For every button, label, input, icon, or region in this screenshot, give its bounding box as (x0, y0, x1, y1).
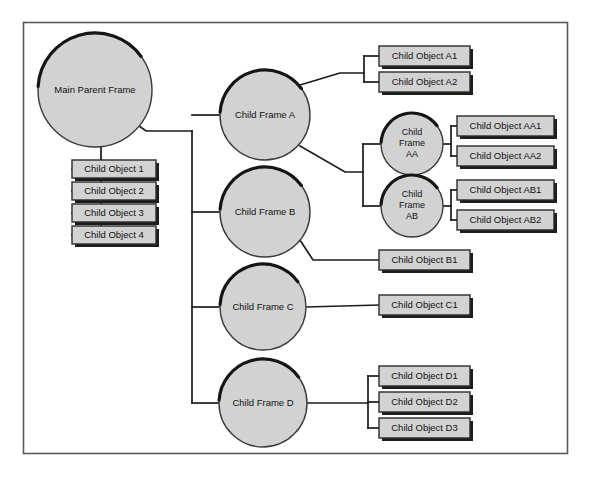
child-object-a1-label: Child Object A1 (392, 50, 457, 61)
child-object-ab2-label: Child Object AB2 (470, 214, 542, 225)
child-frame-aa-label-line: Child (402, 127, 423, 137)
frame-hierarchy-diagram: Child Object 1Child Object 2Child Object… (0, 0, 591, 477)
connector-line (300, 146, 363, 172)
child-frame-ab[interactable]: ChildFrameAB (381, 175, 443, 237)
diagram-canvas: Child Object 1Child Object 2Child Object… (0, 0, 591, 477)
child-object-d1-label: Child Object D1 (391, 370, 458, 381)
child-object-2[interactable]: Child Object 2 (72, 182, 159, 203)
child-object-d3[interactable]: Child Object D3 (379, 418, 473, 441)
child-object-c1-label: Child Object C1 (391, 299, 458, 310)
child-frame-aa-label-line: Frame (399, 138, 425, 148)
child-object-ab1[interactable]: Child Object AB1 (457, 180, 557, 203)
child-object-ab1-label: Child Object AB1 (470, 184, 542, 195)
child-object-aa2-label: Child Object AA2 (470, 150, 542, 161)
child-frame-a[interactable]: Child Frame A (220, 70, 310, 160)
child-object-a2[interactable]: Child Object A2 (379, 72, 473, 95)
child-frame-a-label: Child Frame A (235, 109, 296, 120)
main-parent-frame-label: Main Parent Frame (54, 84, 135, 95)
child-object-d1[interactable]: Child Object D1 (379, 366, 473, 389)
child-object-d3-label: Child Object D3 (391, 422, 458, 433)
child-object-ab2[interactable]: Child Object AB2 (457, 210, 557, 233)
node-layer: Child Object 1Child Object 2Child Object… (38, 33, 557, 447)
connector-line (296, 234, 379, 260)
child-object-3[interactable]: Child Object 3 (72, 204, 159, 225)
child-frame-c[interactable]: Child Frame C (220, 264, 306, 350)
main-parent-frame[interactable]: Main Parent Frame (38, 33, 152, 147)
child-frame-aa[interactable]: ChildFrameAA (381, 113, 443, 175)
child-frame-ab-label-line: Child (402, 189, 423, 199)
child-object-a2-label: Child Object A2 (392, 76, 457, 87)
child-object-3-label: Child Object 3 (84, 207, 144, 218)
child-object-d2[interactable]: Child Object D2 (379, 392, 473, 415)
child-object-aa1[interactable]: Child Object AA1 (457, 116, 557, 139)
child-object-2-label: Child Object 2 (84, 185, 144, 196)
child-frame-c-label: Child Frame C (232, 301, 293, 312)
child-frame-ab-label-line: Frame (399, 200, 425, 210)
child-frame-aa-label-line: AA (406, 149, 418, 159)
connector-line (306, 305, 379, 307)
child-frame-d-label: Child Frame D (232, 397, 293, 408)
child-object-4-label: Child Object 4 (84, 229, 144, 240)
child-object-1-label: Child Object 1 (84, 163, 144, 174)
child-object-a1[interactable]: Child Object A1 (379, 46, 473, 69)
child-object-d2-label: Child Object D2 (391, 396, 458, 407)
child-frame-b-label: Child Frame B (235, 206, 296, 217)
child-object-1[interactable]: Child Object 1 (72, 160, 159, 181)
child-object-b1-label: Child Object B1 (391, 254, 457, 265)
child-object-b1[interactable]: Child Object B1 (379, 250, 473, 273)
child-object-aa1-label: Child Object AA1 (470, 120, 542, 131)
child-frame-d[interactable]: Child Frame D (219, 359, 307, 447)
child-object-aa2[interactable]: Child Object AA2 (457, 146, 557, 169)
child-frame-ab-label-line: AB (406, 211, 418, 221)
child-frame-b[interactable]: Child Frame B (220, 167, 310, 257)
child-object-4[interactable]: Child Object 4 (72, 226, 159, 247)
child-object-c1[interactable]: Child Object C1 (379, 295, 473, 318)
connector-line (300, 73, 364, 85)
